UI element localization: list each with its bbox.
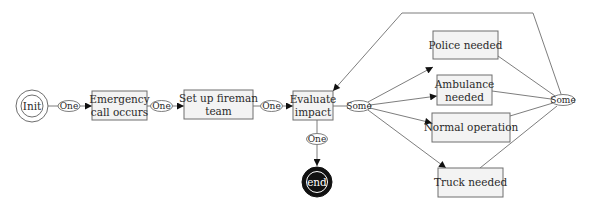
connector-one-2[interactable]: One bbox=[151, 101, 173, 112]
node-police-needed[interactable]: Police needed bbox=[429, 31, 503, 59]
connector-one-1[interactable]: One bbox=[58, 101, 80, 112]
connector-label: One bbox=[152, 101, 171, 111]
node-emergency-call[interactable]: Emergency call occurs bbox=[89, 91, 149, 120]
node-normal-operation[interactable]: Normal operation bbox=[424, 113, 519, 142]
connector-label: Some bbox=[550, 95, 575, 105]
process-diagram: Init One One One One Some Some Emergency… bbox=[0, 0, 595, 206]
node-label-line2: needed bbox=[445, 91, 484, 103]
node-label: Police needed bbox=[429, 39, 503, 51]
node-evaluate-impact[interactable]: Evaluate impact bbox=[290, 91, 337, 120]
connector-label: One bbox=[308, 134, 327, 144]
node-label: Truck needed bbox=[434, 176, 507, 188]
connector-one-4[interactable]: One bbox=[307, 134, 328, 145]
node-ambulance-needed[interactable]: Ambulance needed bbox=[434, 75, 495, 105]
node-label-line1: Emergency bbox=[89, 93, 149, 105]
node-label-line2: call occurs bbox=[91, 106, 148, 118]
edge-police-to-join bbox=[498, 56, 555, 96]
connector-label: One bbox=[60, 101, 79, 111]
edge-ambulance-to-join bbox=[492, 91, 551, 99]
connector-label: One bbox=[262, 101, 281, 111]
node-label-line1: Evaluate bbox=[290, 93, 337, 105]
end-label: end bbox=[307, 176, 327, 188]
connector-one-3[interactable]: One bbox=[261, 101, 283, 112]
init-state[interactable]: Init bbox=[16, 90, 48, 122]
node-label-line2: team bbox=[205, 105, 232, 117]
edge-split-to-ambulance bbox=[370, 96, 437, 105]
node-label-line1: Ambulance bbox=[434, 78, 495, 90]
node-label-line1: Set up fireman bbox=[179, 92, 258, 104]
node-label: Normal operation bbox=[424, 121, 519, 133]
edge-split-to-police bbox=[368, 67, 433, 102]
init-label: Init bbox=[23, 100, 42, 112]
node-label-line2: impact bbox=[295, 106, 332, 118]
node-set-up-fireman-team[interactable]: Set up fireman team bbox=[179, 90, 258, 119]
connector-some-join[interactable]: Some bbox=[550, 95, 575, 106]
node-truck-needed[interactable]: Truck needed bbox=[434, 168, 507, 197]
connector-label: Some bbox=[346, 101, 371, 111]
end-state[interactable]: end bbox=[302, 167, 332, 197]
connector-some-split[interactable]: Some bbox=[346, 101, 371, 112]
